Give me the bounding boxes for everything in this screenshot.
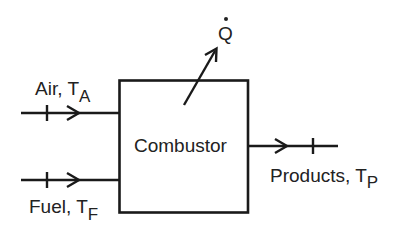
air-stream: Air, TA <box>21 78 119 121</box>
air-label-subscript: A <box>79 87 91 106</box>
combustor-label: Combustor <box>134 135 228 156</box>
fuel-stream: Fuel, TF <box>21 172 119 224</box>
fuel-label-text: Fuel, T <box>29 196 88 217</box>
air-label-text: Air, T <box>35 78 79 99</box>
air-label: Air, TA <box>35 78 91 106</box>
combustor-block: Combustor <box>120 81 249 213</box>
products-stream: Products, TP <box>248 138 378 192</box>
products-label-subscript: P <box>367 173 378 192</box>
products-label-text: Products, T <box>270 165 367 186</box>
fuel-label: Fuel, TF <box>29 196 98 224</box>
combustor-diagram: Combustor Air, TA Fuel, TF Products, TP … <box>0 0 402 227</box>
products-label: Products, TP <box>270 165 378 192</box>
fuel-label-subscript: F <box>88 205 98 224</box>
q-dot-label: Q <box>218 23 233 44</box>
q-dot-accent-icon <box>224 17 228 21</box>
